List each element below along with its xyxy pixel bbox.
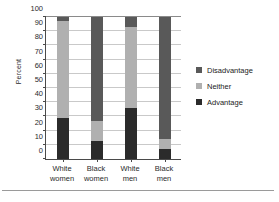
x-axis-tick-mark [131, 159, 132, 162]
bottom-divider [2, 190, 274, 191]
x-axis-category-line: men [113, 174, 147, 184]
legend-label: Neither [207, 82, 231, 91]
y-axis-tick-label: 10 [35, 131, 43, 140]
bar-group [159, 17, 171, 159]
x-axis-category-line: men [147, 174, 181, 184]
bar-segment-advantage[interactable] [159, 149, 171, 159]
x-axis-category-black-women: Blackwomen [79, 164, 113, 183]
legend-item-disadvantage[interactable]: Disadvantage [196, 62, 276, 78]
bar-segment-advantage[interactable] [91, 141, 103, 159]
chart-figure: Percent 0102030405060708090100 Whitewome… [0, 0, 279, 202]
plot-area: 0102030405060708090100 [45, 17, 181, 160]
bar-group [91, 17, 103, 159]
x-axis-category-line: White [113, 164, 147, 174]
x-axis-tick-mark [97, 159, 98, 162]
bar-group [125, 17, 137, 159]
bar-segment-disadvantage[interactable] [159, 17, 171, 139]
y-axis-tick-label: 100 [30, 4, 43, 13]
stacked-bar[interactable] [125, 17, 137, 159]
bar-segment-neither[interactable] [125, 27, 137, 108]
bar-segment-disadvantage[interactable] [57, 17, 69, 21]
y-axis-tick-label: 90 [35, 18, 43, 27]
x-axis-tick-mark [165, 159, 166, 162]
x-axis-category-line: Black [147, 164, 181, 174]
bar-segment-neither[interactable] [57, 21, 69, 118]
stacked-bar[interactable] [91, 17, 103, 159]
bar-segment-neither[interactable] [91, 121, 103, 141]
legend-item-neither[interactable]: Neither [196, 78, 276, 94]
legend-swatch-icon [196, 83, 202, 89]
stacked-bar[interactable] [57, 17, 69, 159]
y-axis-tick-label: 80 [35, 32, 43, 41]
x-axis-category-line: White [45, 164, 79, 174]
y-axis-tick-label: 40 [35, 89, 43, 98]
chart-legend: DisadvantageNeitherAdvantage [196, 62, 276, 110]
legend-label: Disadvantage [207, 66, 253, 75]
x-axis-category-line: women [45, 174, 79, 184]
y-axis-tick-label: 60 [35, 60, 43, 69]
bar-series-container [46, 17, 181, 159]
x-axis-tick-mark [63, 159, 64, 162]
legend-swatch-icon [196, 67, 202, 73]
x-axis-category-line: Black [79, 164, 113, 174]
bar-segment-neither[interactable] [159, 139, 171, 149]
x-axis-category-line: women [79, 174, 113, 184]
y-axis-tick-label: 20 [35, 117, 43, 126]
y-axis-tick-label: 30 [35, 103, 43, 112]
bar-segment-disadvantage[interactable] [125, 17, 137, 27]
x-axis-category-white-women: Whitewomen [45, 164, 79, 183]
x-axis-category-black-men: Blackmen [147, 164, 181, 183]
legend-swatch-icon [196, 99, 202, 105]
y-axis-title: Percent [15, 42, 22, 102]
bar-segment-disadvantage[interactable] [91, 17, 103, 121]
legend-label: Advantage [207, 98, 243, 107]
y-axis-tick-label: 50 [35, 75, 43, 84]
y-axis-tick-label: 0 [39, 146, 43, 155]
bar-segment-advantage[interactable] [57, 118, 69, 159]
stacked-bar[interactable] [159, 17, 171, 159]
y-axis-tick-label: 70 [35, 46, 43, 55]
bar-segment-advantage[interactable] [125, 108, 137, 159]
legend-item-advantage[interactable]: Advantage [196, 94, 276, 110]
bar-group [57, 17, 69, 159]
x-axis-category-white-men: Whitemen [113, 164, 147, 183]
